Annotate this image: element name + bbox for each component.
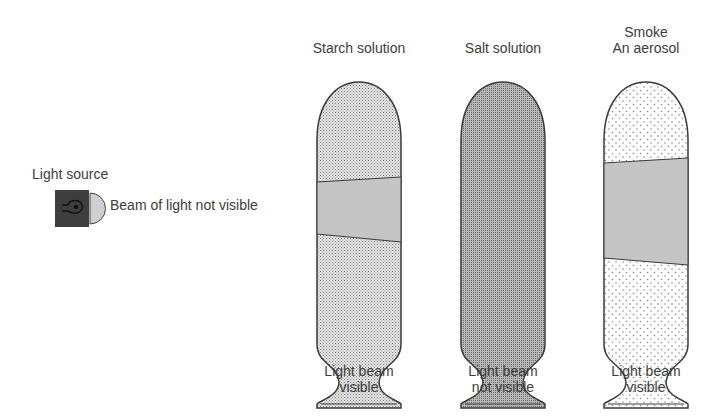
tube-smoke <box>604 82 688 408</box>
beam-visible <box>604 158 688 265</box>
salt-caption-1: Light beam <box>433 363 573 379</box>
starch-title: Starch solution <box>289 40 429 56</box>
beam-note-label: Beam of light not visible <box>110 197 258 213</box>
beam-visible <box>317 177 401 242</box>
tube-starch <box>317 82 401 408</box>
smoke-caption-1: Light beam <box>576 363 716 379</box>
light-source-label: Light source <box>32 166 108 182</box>
starch-caption-1: Light beam <box>289 363 429 379</box>
lamp-body <box>55 190 89 227</box>
tube-salt <box>461 82 545 408</box>
salt-title: Salt solution <box>433 40 573 56</box>
starch-caption-2: visible <box>289 379 429 395</box>
smoke-caption-2: visible <box>576 379 716 395</box>
light-source <box>55 190 106 227</box>
smoke-title: Smoke <box>576 24 716 40</box>
smoke-subtitle: An aerosol <box>576 40 716 56</box>
salt-caption-2: not visible <box>433 379 573 395</box>
lens-icon <box>90 193 106 224</box>
